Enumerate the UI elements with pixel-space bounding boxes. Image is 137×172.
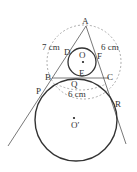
geometry-diagram: A 7 cm D 6 cm F O E B C Q 6 cm P R O′ <box>0 0 137 172</box>
label-p: P <box>36 87 41 96</box>
label-ac-length: 6 cm <box>101 43 119 52</box>
center-o-prime-dot <box>73 117 75 119</box>
label-d: D <box>64 48 71 57</box>
label-r: R <box>115 100 121 109</box>
label-c: C <box>107 73 113 82</box>
label-e: E <box>79 69 85 78</box>
label-a: A <box>82 17 89 26</box>
diagram-canvas <box>0 0 137 172</box>
label-bc-length: 6 cm <box>68 90 86 99</box>
label-f: F <box>97 52 102 61</box>
label-o: O <box>79 51 86 60</box>
label-b: B <box>45 73 51 82</box>
center-o-dot <box>82 61 84 63</box>
label-o-prime: O′ <box>71 121 79 130</box>
label-q: Q <box>71 80 78 89</box>
label-ab-length: 7 cm <box>42 43 60 52</box>
